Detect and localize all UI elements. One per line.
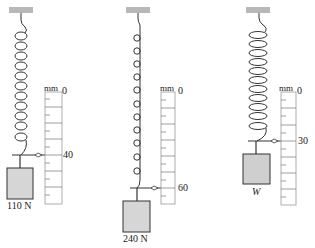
weight-block <box>243 154 270 184</box>
pointer-arrow-icon <box>35 153 42 157</box>
weight-label: 240 N <box>123 234 148 244</box>
pointer-arrow-icon <box>271 139 278 143</box>
weight-label: 110 N <box>7 201 31 211</box>
spring-coils <box>249 32 267 130</box>
scale-unit-label: mm <box>160 84 174 93</box>
ceiling-support <box>9 7 33 13</box>
panel-2 <box>123 7 175 232</box>
ceiling-support <box>126 7 150 13</box>
weight-block <box>7 168 33 199</box>
spring-top-wire <box>259 13 266 32</box>
spring-coils <box>15 32 27 141</box>
scale-reading-label: 60 <box>178 183 188 193</box>
panel-3 <box>243 7 296 205</box>
scale-unit-label: mm <box>279 84 293 93</box>
scale-reading-label: 30 <box>298 136 308 146</box>
weight-block <box>123 201 150 232</box>
spring-diagram <box>0 0 315 248</box>
scale-zero-label: 0 <box>178 86 183 96</box>
scale-zero-label: 0 <box>62 86 67 96</box>
scale-unit-label: mm <box>44 84 58 93</box>
spring-bottom-wire <box>21 140 26 155</box>
scale-reading-label: 40 <box>63 150 73 160</box>
scale-zero-label: 0 <box>297 86 302 96</box>
measuring-scale <box>281 92 296 205</box>
spring-top-wire <box>21 13 27 33</box>
ceiling-support <box>246 7 270 13</box>
pointer-arrow-icon <box>151 186 158 190</box>
panel-1 <box>7 7 62 204</box>
weight-label: W <box>252 187 260 197</box>
spring-loops <box>134 35 140 174</box>
